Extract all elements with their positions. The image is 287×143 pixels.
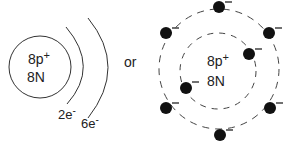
outer-electron — [213, 1, 232, 13]
left-nucleus-circle — [9, 36, 71, 98]
right-nucleus-protons: 8p+ — [207, 51, 229, 69]
outer-electron — [160, 102, 179, 114]
left-shell-2-arc — [88, 18, 108, 118]
left-atom-model: 8p+ 8N 2e- 6e- — [9, 18, 108, 131]
right-outer-shell — [159, 9, 279, 129]
outer-electron — [264, 102, 283, 114]
right-nucleus-neutrons: 8N — [207, 73, 225, 89]
left-shell-1-label: 2e- — [58, 105, 76, 122]
left-nucleus-neutrons: 8N — [27, 69, 45, 85]
right-atom-model: 8p+ 8N — [159, 1, 283, 141]
oxygen-atom-diagram: 8p+ 8N 2e- 6e- or 8p+ 8N — [0, 0, 287, 143]
inner-electron — [243, 48, 262, 60]
outer-electron — [263, 27, 282, 39]
left-nucleus-protons: 8p+ — [28, 49, 50, 67]
outer-electron — [214, 129, 233, 141]
right-inner-shell — [180, 33, 256, 109]
left-shell-1-arc — [66, 27, 83, 104]
left-shell-2-label: 6e- — [81, 114, 99, 131]
connector-or: or — [124, 54, 137, 70]
outer-electron — [160, 27, 179, 39]
inner-electron — [180, 82, 199, 94]
